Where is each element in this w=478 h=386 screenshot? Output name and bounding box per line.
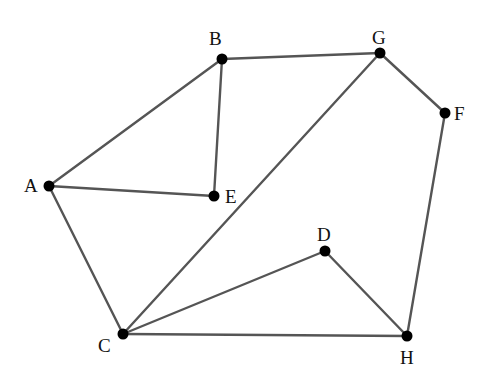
node-b	[217, 54, 228, 65]
node-label-g: G	[372, 27, 386, 48]
edge-a-b	[49, 59, 222, 186]
node-label-c: C	[98, 335, 111, 356]
edge-c-h	[123, 334, 407, 336]
node-g	[375, 48, 386, 59]
node-e	[209, 191, 220, 202]
node-d	[320, 246, 331, 257]
node-f	[440, 108, 451, 119]
edge-b-e	[214, 59, 222, 196]
edge-a-c	[49, 186, 123, 334]
node-label-a: A	[24, 175, 38, 196]
node-label-h: H	[400, 347, 414, 368]
node-label-b: B	[209, 28, 222, 49]
node-label-d: D	[317, 224, 331, 245]
node-c	[118, 329, 129, 340]
node-a	[44, 181, 55, 192]
node-label-e: E	[225, 186, 237, 207]
graph-diagram: ABCDEFGH	[0, 0, 478, 386]
edge-c-d	[123, 251, 325, 334]
edge-d-h	[325, 251, 407, 336]
edge-f-h	[407, 113, 445, 336]
edge-a-e	[49, 186, 214, 196]
edge-g-f	[380, 53, 445, 113]
node-h	[402, 331, 413, 342]
edge-b-g	[222, 53, 380, 59]
labels-group: ABCDEFGH	[24, 27, 465, 368]
node-label-f: F	[454, 103, 465, 124]
edges-group	[49, 53, 445, 336]
